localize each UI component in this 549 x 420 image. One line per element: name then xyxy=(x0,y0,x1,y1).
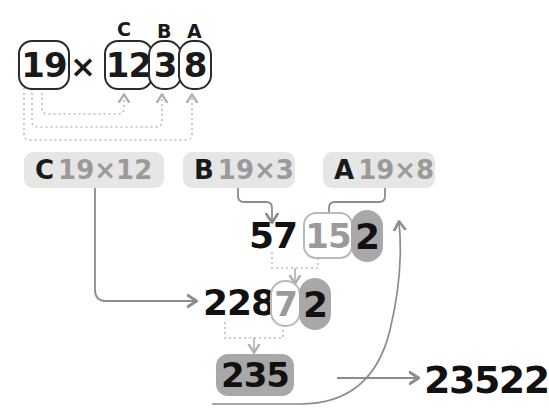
total-badge-235: 235 xyxy=(216,354,294,396)
step-chip-c-tag: C xyxy=(35,155,54,185)
carry-pill-15: 15 xyxy=(303,212,353,259)
step-chip-a: A 19×8 xyxy=(323,152,435,188)
kept-digit-2-upper: 2 xyxy=(351,210,383,262)
step-chip-c: C 19×12 xyxy=(24,152,164,188)
step-chip-b-tag: B xyxy=(194,155,214,185)
step-chip-b-expr: 19×3 xyxy=(218,155,294,185)
multiplier-digit-12-box: 12 xyxy=(104,40,153,90)
multiply-operator: × xyxy=(70,48,96,84)
multiplicand-box: 19 xyxy=(18,40,70,90)
multiplier-digit-3-box: 3 xyxy=(148,40,182,90)
final-answer: 23522 xyxy=(424,358,549,402)
carry-pill-7: 7 xyxy=(270,280,301,327)
step-chip-b: B 19×3 xyxy=(183,152,295,188)
kept-digit-2-lower: 2 xyxy=(299,278,331,330)
tag-label-c: C xyxy=(117,18,131,40)
partial-result-228: 228 xyxy=(203,282,275,323)
multiplier-digit-8-box: 8 xyxy=(178,40,212,90)
step-chip-a-expr: 19×8 xyxy=(358,155,434,185)
step-chip-c-expr: 19×12 xyxy=(58,155,152,185)
tag-label-b: B xyxy=(157,20,171,42)
step-chip-a-tag: A xyxy=(334,155,354,185)
tag-label-a: A xyxy=(187,20,202,42)
partial-result-57: 57 xyxy=(249,215,297,256)
